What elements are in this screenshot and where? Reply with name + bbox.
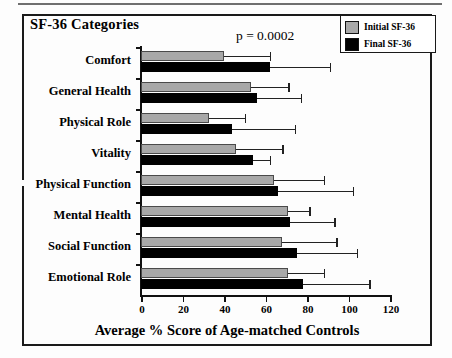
bar-group (141, 263, 390, 294)
bar-group (141, 201, 390, 232)
category-label: General Health (49, 85, 131, 98)
bar-initial (141, 268, 288, 278)
error-bar-line (251, 87, 288, 88)
error-bar-cap (282, 145, 284, 154)
x-axis-tick (224, 295, 226, 302)
category-label: Physical Function (36, 178, 132, 191)
error-bar-cap (270, 156, 272, 165)
x-axis-tick-label: 40 (220, 303, 231, 315)
bar-initial (141, 51, 224, 61)
error-bar-line (224, 56, 270, 57)
bar-initial (141, 144, 236, 154)
error-bar-line (209, 118, 244, 119)
bar-final (141, 155, 253, 165)
error-bar-line (253, 160, 270, 161)
p-value-annotation: p = 0.0002 (236, 28, 294, 44)
legend-swatch-initial-icon (345, 21, 359, 34)
x-axis-tick-label: 80 (303, 303, 314, 315)
x-axis-tick (183, 295, 185, 302)
error-bar-line (303, 284, 369, 285)
error-bar-line (278, 191, 353, 192)
error-bar-cap (270, 52, 272, 61)
error-bar-cap (357, 249, 359, 258)
x-axis-tick-label: 20 (178, 303, 189, 315)
bar-final (141, 186, 278, 196)
error-bar-cap (301, 94, 303, 103)
error-bar-line (274, 180, 324, 181)
bar-final (141, 93, 257, 103)
category-label: Mental Health (54, 209, 131, 222)
error-bar-cap (336, 238, 338, 247)
x-axis-tick-label: 120 (383, 303, 400, 315)
bar-final (141, 62, 270, 72)
error-bar-line (257, 98, 301, 99)
bar-initial (141, 206, 288, 216)
bar-group (141, 46, 390, 77)
bar-final (141, 248, 297, 258)
bar-initial (141, 175, 274, 185)
error-bar-line (288, 273, 323, 274)
bar-initial (141, 82, 251, 92)
error-bar-cap (330, 63, 332, 72)
x-axis-title: Average % Score of Age-matched Controls (22, 322, 432, 339)
x-axis-tick (307, 295, 309, 302)
bar-group (141, 77, 390, 108)
error-bar-cap (369, 280, 371, 289)
legend-item-initial: Initial SF-36 (345, 19, 431, 35)
x-axis-tick (349, 295, 351, 302)
category-label: Vitality (91, 147, 131, 160)
error-bar-cap (334, 218, 336, 227)
error-bar-line (290, 222, 334, 223)
plot-area (141, 46, 390, 294)
error-bar-cap (324, 176, 326, 185)
x-axis-tick-label: 100 (341, 303, 358, 315)
error-bar-line (288, 211, 309, 212)
bar-group (141, 108, 390, 139)
bar-group (141, 170, 390, 201)
chart-figure: SF-36 Categories p = 0.0002 Initial SF-3… (0, 0, 452, 358)
x-axis-tick-label: 60 (261, 303, 272, 315)
bar-final (141, 124, 232, 134)
bar-group (141, 232, 390, 263)
chart-title: SF-36 Categories (30, 16, 139, 33)
page-top-rule (18, 3, 442, 5)
error-bar-line (270, 67, 330, 68)
category-label: Social Function (48, 240, 131, 253)
category-label: Comfort (85, 54, 131, 67)
bar-final (141, 217, 290, 227)
bar-initial (141, 237, 282, 247)
legend-label-initial: Initial SF-36 (364, 22, 415, 32)
error-bar-line (236, 149, 282, 150)
x-axis-tick (266, 295, 268, 302)
error-bar-cap (324, 269, 326, 278)
error-bar-line (232, 129, 294, 130)
x-axis-tick-label: 0 (139, 303, 145, 315)
error-bar-cap (245, 114, 247, 123)
error-bar-line (297, 253, 357, 254)
chart-frame-right (430, 14, 432, 346)
bar-initial (141, 113, 209, 123)
chart-frame-bottom (22, 344, 432, 346)
category-label: Physical Role (59, 116, 131, 129)
error-bar-line (282, 242, 336, 243)
error-bar-cap (309, 207, 311, 216)
x-axis-tick (390, 295, 392, 302)
bar-final (141, 279, 303, 289)
bar-group (141, 139, 390, 170)
error-bar-cap (353, 187, 355, 196)
category-axis-labels: ComfortGeneral HealthPhysical RoleVitali… (0, 46, 135, 296)
error-bar-cap (295, 125, 297, 134)
x-axis-tick (141, 295, 143, 302)
category-label: Emotional Role (48, 271, 131, 284)
error-bar-cap (288, 83, 290, 92)
